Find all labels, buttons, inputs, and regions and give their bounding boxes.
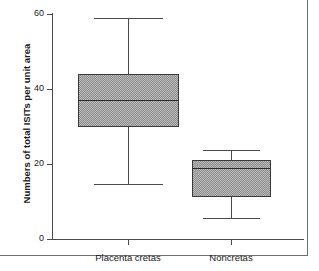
x-tick-label-placenta-cretas: Placenta cretas [78,252,178,263]
y-tick-40 [47,89,52,90]
median-line [192,168,271,169]
y-axis-line [52,13,53,240]
x-tick-label-noncretas: Noncretas [181,252,281,263]
whisker-line-upper [231,150,232,160]
whisker-cap-lower [203,218,260,219]
boxplot-figure: Numbers of total ISITs per unit area 60 … [0,0,319,271]
x-axis-line [52,239,304,240]
y-tick-label-60: 60 [18,9,44,18]
x-tick-placenta-cretas [128,240,129,245]
y-tick-label-60-wrap: 60 [14,9,44,18]
box-rect [192,160,271,197]
whisker-line-upper [128,18,129,74]
y-axis-title: Numbers of total ISITs per unit area [21,34,32,214]
figure-frame [0,0,308,256]
y-tick-label-20: 20 [18,159,44,168]
y-tick-label-0-wrap: 0 [14,234,44,243]
y-tick-20 [47,164,52,165]
y-tick-label-40: 40 [18,84,44,93]
y-tick-label-0: 0 [18,234,44,243]
x-tick-noncretas [231,240,232,245]
y-tick-label-40-wrap: 40 [14,84,44,93]
median-line [78,100,179,101]
y-tick-label-20-wrap: 20 [14,159,44,168]
y-tick-60 [47,14,52,15]
whisker-line-lower [231,197,232,218]
whisker-line-lower [128,127,129,184]
whisker-cap-lower [94,184,163,185]
